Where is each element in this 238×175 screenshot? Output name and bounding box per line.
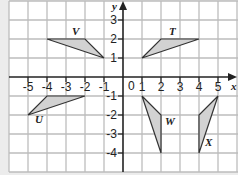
label-x: X bbox=[204, 136, 213, 148]
x-tick-label: -5 bbox=[23, 80, 34, 94]
x-tick-label: 1 bbox=[139, 80, 146, 94]
origin-label: 0 bbox=[128, 79, 135, 93]
y-axis-label: y bbox=[110, 0, 117, 12]
y-tick-label: -3 bbox=[106, 127, 117, 141]
y-tick-label: 3 bbox=[110, 13, 117, 27]
x-tick-label: 5 bbox=[215, 80, 222, 94]
y-tick-label: 2 bbox=[110, 32, 117, 46]
x-tick-label: -2 bbox=[80, 80, 91, 94]
x-tick-label: 2 bbox=[158, 80, 165, 94]
x-axis-label: x bbox=[230, 80, 237, 92]
x-tick-label: 3 bbox=[177, 80, 184, 94]
label-u: U bbox=[35, 113, 44, 125]
x-tick-label: -4 bbox=[42, 80, 53, 94]
y-tick-label: -2 bbox=[106, 108, 117, 122]
label-w: W bbox=[165, 115, 176, 127]
y-tick-label: -4 bbox=[106, 146, 117, 160]
coordinate-grid: -5 -4 -3 -2 -1 1 2 3 4 5 0 3 2 1 -1 -2 -… bbox=[0, 0, 238, 175]
x-tick-label: -3 bbox=[61, 80, 72, 94]
y-tick-label: -1 bbox=[106, 89, 117, 103]
y-tick-label: 1 bbox=[110, 51, 117, 65]
x-tick-label: 4 bbox=[196, 80, 203, 94]
